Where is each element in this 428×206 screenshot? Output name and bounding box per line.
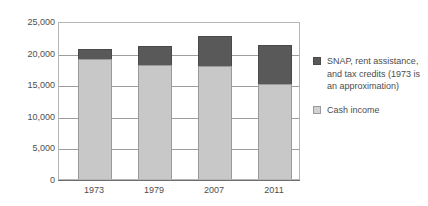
x-tick-label-2007: 2007 bbox=[190, 183, 238, 197]
x-tick-label-1979: 1979 bbox=[130, 183, 178, 197]
y-tick-label: 0 bbox=[3, 175, 55, 185]
bar-segment-snap-1973 bbox=[78, 49, 112, 59]
y-tick-label: 25,000 bbox=[3, 17, 55, 27]
bar-segment-cash-income-2007 bbox=[198, 66, 232, 179]
x-tick-label-2011: 2011 bbox=[250, 183, 298, 197]
y-tick-label: 15,000 bbox=[3, 80, 55, 90]
bar-segment-cash-income-1979 bbox=[138, 65, 172, 179]
bars-layer bbox=[59, 23, 299, 179]
bar-group-2011 bbox=[258, 45, 292, 179]
y-tick-label: 20,000 bbox=[3, 49, 55, 59]
x-axis-line bbox=[58, 180, 300, 181]
bar-group-2007 bbox=[198, 36, 232, 179]
x-tick-label-1973: 1973 bbox=[70, 183, 118, 197]
y-tick-label: 5,000 bbox=[3, 143, 55, 153]
legend-label-snap: SNAP, rent assistance, and tax credits (… bbox=[327, 55, 425, 93]
legend: SNAP, rent assistance, and tax credits (… bbox=[313, 55, 425, 127]
bar-segment-cash-income-1973 bbox=[78, 59, 112, 179]
legend-label-cash-income: Cash income bbox=[327, 104, 380, 117]
stacked-bar-chart: 25,000 20,000 15,000 10,000 5,000 0 bbox=[0, 0, 428, 206]
bar-segment-cash-income-2011 bbox=[258, 84, 292, 179]
legend-swatch-snap-icon bbox=[313, 57, 321, 65]
bar-segment-snap-1979 bbox=[138, 46, 172, 66]
y-axis: 25,000 20,000 15,000 10,000 5,000 0 bbox=[0, 0, 55, 206]
legend-swatch-cash-income-icon bbox=[313, 106, 321, 114]
bar-group-1973 bbox=[78, 49, 112, 179]
bar-segment-snap-2007 bbox=[198, 36, 232, 66]
bar-group-1979 bbox=[138, 46, 172, 179]
bar-segment-snap-2011 bbox=[258, 45, 292, 84]
x-axis: 1973 1979 2007 2011 bbox=[58, 183, 300, 203]
legend-item-snap[interactable]: SNAP, rent assistance, and tax credits (… bbox=[313, 55, 425, 93]
plot-area bbox=[58, 22, 300, 180]
y-tick-label: 10,000 bbox=[3, 112, 55, 122]
legend-item-cash-income[interactable]: Cash income bbox=[313, 104, 425, 117]
